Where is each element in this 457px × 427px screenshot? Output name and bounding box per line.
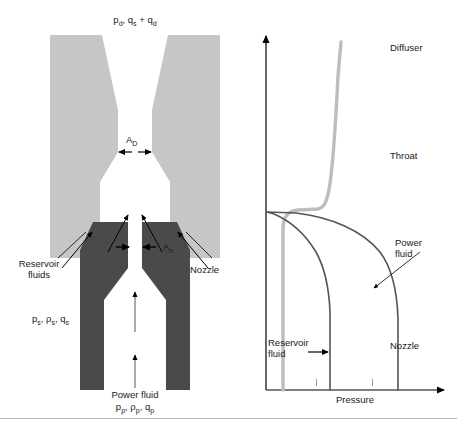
series-reservoir-fluid [267,212,330,390]
annotation-power-fluid-line1: Power [395,237,422,248]
figure-root: pd, qs + qd AD An Reservoir fluids Nozzl… [0,0,457,427]
annotation-power-fluid-line2: fluid [395,248,412,259]
chart-x-axis-label: Pressure [300,394,410,405]
reservoir-fluids-label: Reservoir fluids [8,258,70,280]
nozzle-callout-label: Nozzle [190,264,219,275]
region-label-nozzle: Nozzle [390,340,419,351]
throat-area-label: AD [126,134,137,149]
region-label-throat: Throat [390,150,417,161]
axis-tick-right [372,379,373,386]
annotation-reservoir-fluid-line1: Reservoir [268,337,309,348]
schematic-svg [0,0,457,427]
axis-tick-left [316,379,317,386]
annotation-reservoir-fluid: Reservoir fluid [268,337,309,359]
annotation-power-fluid: Power fluid [395,237,422,259]
series-power-fluid [267,212,398,390]
power-fluid-vars-label: pp, ρp, qp [83,401,187,416]
footer-divider [0,418,457,419]
power-fluid-title: Power fluid [83,389,187,400]
discharge-label: pd, qs + qd [95,14,175,29]
reservoir-fluids-line1: Reservoir [19,258,60,269]
region-label-diffuser: Diffuser [390,42,423,53]
reservoir-fluids-line2: fluids [28,269,50,280]
annotation-reservoir-fluid-line2: fluid [268,348,285,359]
suction-conditions-label: ps, ρs, qs [32,313,69,328]
nozzle-area-label: An [163,241,173,256]
